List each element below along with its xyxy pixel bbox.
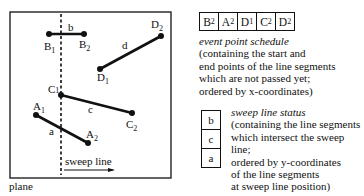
description-line: which intersect the sweep line; [231,131,364,156]
schedule-cell: A2 [219,13,238,30]
label-c2: C2 [126,118,137,133]
segment-label-a: a [49,125,54,137]
plane-label: plane [9,180,33,192]
description-line: which are not passed yet; [199,72,336,84]
sweep-status-description: sweep line status (containing the line s… [231,106,364,193]
sweep-line-label: sweep line [65,155,112,167]
sweep-line-status: b c a [201,110,221,168]
sweep-status-title: sweep line status [231,106,364,118]
status-cell: c [202,130,220,149]
segment-label-b: b [68,21,74,33]
label-d1: D1 [97,71,109,86]
event-schedule-title: event point schedule [199,35,336,47]
description-line: (containing the start and [199,47,336,59]
point-b2 [81,31,87,37]
description-line: at sweep line position) [231,180,364,192]
point-c2 [129,110,135,116]
status-cell: a [202,149,220,167]
plane-frame [10,12,171,178]
point-a1 [33,112,39,118]
segment-a [36,115,88,143]
description-line: end points of the line segments [199,60,336,72]
schedule-cell: D1 [238,13,257,30]
label-b2: B2 [79,38,90,53]
status-cell: b [202,111,220,130]
point-d2 [158,33,164,39]
schedule-cell: D2 [276,13,294,30]
label-c1: C1 [48,83,59,95]
arrowhead-icon [108,168,115,172]
event-schedule-description: event point schedule (containing the sta… [199,35,336,97]
point-b1 [46,31,52,37]
description-line: ordered by y-coordinates [231,156,364,168]
point-a2 [85,140,91,146]
description-line: of the line segments [231,168,364,180]
schedule-cell: C2 [257,13,276,30]
label-d2: D2 [151,18,163,33]
description-line: ordered by x-coordinates) [199,85,336,97]
plane-diagram: sweep line b B1 B2 d D1 D2 c C1 C2 a A1 … [0,0,190,196]
label-b1: B1 [44,40,55,55]
segment-c [61,95,132,113]
segment-label-d: d [122,39,128,51]
description-line: (containing the line segments [231,118,364,130]
segment-label-c: c [88,103,93,115]
event-point-schedule: B2 A2 D1 C2 D2 [199,12,295,31]
schedule-cell: B2 [200,13,219,30]
segment-d [100,36,161,69]
